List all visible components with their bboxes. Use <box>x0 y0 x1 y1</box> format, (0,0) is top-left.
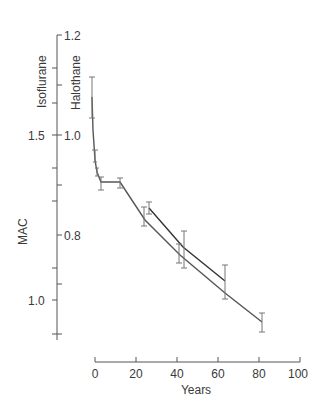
x-tick-0: 0 <box>92 367 99 381</box>
iso-tick-1-5: 1.5 <box>28 129 45 143</box>
x-tick-20: 20 <box>129 367 143 381</box>
hal-tick-1-2: 1.2 <box>64 29 81 43</box>
halothane-label: Halothane <box>69 55 83 110</box>
iso-tick-1-0: 1.0 <box>28 294 45 308</box>
halothane-line <box>149 208 225 281</box>
hal-tick-0-8: 0.8 <box>64 229 81 243</box>
x-tick-40: 40 <box>170 367 184 381</box>
isoflurane-label: Isoflurane <box>35 55 49 108</box>
x-tick-100: 100 <box>288 367 308 381</box>
x-axis-label: Years <box>181 383 211 397</box>
x-tick-60: 60 <box>211 367 225 381</box>
error-bars <box>89 77 265 332</box>
x-tick-80: 80 <box>252 367 266 381</box>
hal-tick-1-0: 1.0 <box>64 129 81 143</box>
x-axis <box>95 357 300 362</box>
mac-label: MAC <box>16 218 30 245</box>
isoflurane-line <box>92 97 262 322</box>
mac-vs-age-chart: 1.2 1.0 0.8 1.5 1.0 Isoflurane Halothane… <box>0 0 326 411</box>
y-axis <box>52 35 62 340</box>
